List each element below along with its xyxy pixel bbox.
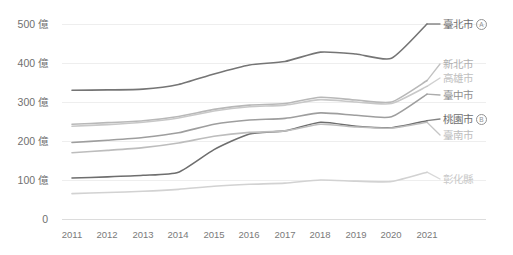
- legend-connector: [427, 172, 440, 179]
- xtick-label-2019: 2019: [336, 230, 376, 240]
- xtick-label-2018: 2018: [300, 230, 340, 240]
- legend-label-text: 臺北市: [443, 19, 473, 30]
- legend-label-text: 桃園市: [443, 114, 473, 125]
- legend-item-taoyuan[interactable]: 桃園市 B: [443, 114, 487, 125]
- legend-label-text: 新北市: [443, 59, 473, 70]
- xtick-label-2012: 2012: [87, 230, 127, 240]
- xtick-label-2020: 2020: [371, 230, 411, 240]
- legend-label-text: 高雄市: [443, 73, 473, 84]
- series-lines: [72, 24, 427, 194]
- ytick-label-500: 500 億: [4, 19, 48, 30]
- line-chart: 500 億 400 億 300 億 200 億 100 億 0 2011 201…: [0, 0, 513, 255]
- legend-item-kaohsiung[interactable]: 高雄市: [443, 73, 473, 84]
- ytick-label-0: 0: [4, 214, 48, 225]
- ytick-label-300: 300 億: [4, 97, 48, 108]
- legend-item-newtaipei[interactable]: 新北市: [443, 59, 473, 70]
- xtick-label-2013: 2013: [123, 230, 163, 240]
- legend-connector: [427, 64, 440, 81]
- legend-item-tainan[interactable]: 臺南市: [443, 130, 473, 141]
- legend-label-text: 彰化縣: [443, 174, 473, 185]
- legend-connector: [427, 119, 440, 121]
- xtick-label-2011: 2011: [52, 230, 92, 240]
- legend-connector: [427, 78, 440, 86]
- xtick-label-2016: 2016: [229, 230, 269, 240]
- legend-connector: [427, 94, 440, 95]
- xtick-label-2015: 2015: [194, 230, 234, 240]
- ytick-label-400: 400 億: [4, 58, 48, 69]
- series-line: [72, 24, 427, 90]
- chart-plot-area: [0, 0, 513, 255]
- legend-item-changhua[interactable]: 彰化縣: [443, 174, 473, 185]
- legend-item-taichung[interactable]: 臺中市: [443, 90, 473, 101]
- legend-label-text: 臺中市: [443, 90, 473, 101]
- xtick-label-2017: 2017: [265, 230, 305, 240]
- ytick-label-100: 100 億: [4, 175, 48, 186]
- legend-badge-a: A: [476, 19, 487, 30]
- ytick-label-200: 200 億: [4, 136, 48, 147]
- legend-label-text: 臺南市: [443, 130, 473, 141]
- legend-connector: [427, 122, 440, 135]
- legend-badge-b: B: [476, 114, 487, 125]
- legend-item-taipei[interactable]: 臺北市 A: [443, 19, 487, 30]
- xtick-label-2021: 2021: [407, 230, 447, 240]
- xtick-label-2014: 2014: [158, 230, 198, 240]
